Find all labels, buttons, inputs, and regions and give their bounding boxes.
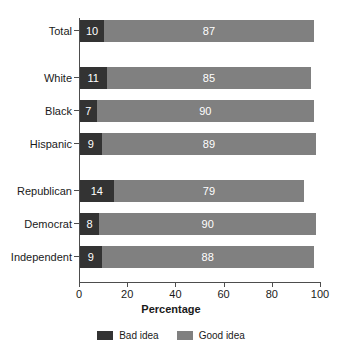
- y-axis-tick: [74, 30, 79, 31]
- legend-item: Good idea: [177, 330, 245, 341]
- category-label: Total: [49, 20, 72, 42]
- x-axis-line: [79, 282, 321, 283]
- legend-swatch: [97, 331, 113, 340]
- x-axis-tick-label: 100: [311, 288, 329, 300]
- chart-legend: Bad ideaGood idea: [0, 330, 342, 341]
- category-label: Republican: [17, 180, 72, 202]
- bar-segment-bad-idea: 9: [80, 133, 102, 155]
- table-row: Democrat890: [0, 213, 342, 235]
- bar-segment-good-idea: 90: [99, 213, 316, 235]
- legend-label: Bad idea: [119, 330, 158, 341]
- y-axis-tick: [74, 256, 79, 257]
- legend-item: Bad idea: [97, 330, 158, 341]
- legend-swatch: [177, 331, 193, 340]
- category-label: Hispanic: [30, 133, 72, 155]
- bar-segment-bad-idea: 9: [80, 246, 102, 268]
- x-axis-tick-label: 0: [76, 288, 82, 300]
- bar-segment-bad-idea: 10: [80, 20, 104, 42]
- y-axis-tick: [74, 143, 79, 144]
- bar-segment-bad-idea: 8: [80, 213, 99, 235]
- x-axis-tick: [320, 282, 321, 287]
- category-label: Democrat: [24, 213, 72, 235]
- table-row: Hispanic989: [0, 133, 342, 155]
- table-row: Republican1479: [0, 180, 342, 202]
- bar-segment-good-idea: 89: [102, 133, 316, 155]
- table-row: White1185: [0, 67, 342, 89]
- bar-segment-bad-idea: 7: [80, 100, 97, 122]
- bar-segment-good-idea: 87: [104, 20, 314, 42]
- table-row: Black790: [0, 100, 342, 122]
- table-row: Total1087: [0, 20, 342, 42]
- x-axis-tick-label: 40: [169, 288, 181, 300]
- x-axis-tick: [175, 282, 176, 287]
- category-label: Black: [45, 100, 72, 122]
- y-axis-tick: [74, 77, 79, 78]
- bar-segment-bad-idea: 14: [80, 180, 114, 202]
- y-axis-tick: [74, 223, 79, 224]
- plot-area: Total1087White1185Black790Hispanic989Rep…: [0, 0, 342, 349]
- x-axis-tick-label: 80: [266, 288, 278, 300]
- x-axis-tick-label: 20: [121, 288, 133, 300]
- y-axis-tick: [74, 190, 79, 191]
- category-label: Independent: [11, 246, 72, 268]
- category-label: White: [44, 67, 72, 89]
- legend-label: Good idea: [199, 330, 245, 341]
- bar-segment-good-idea: 90: [97, 100, 314, 122]
- table-row: Independent988: [0, 246, 342, 268]
- bar-segment-bad-idea: 11: [80, 67, 107, 89]
- x-axis-tick: [272, 282, 273, 287]
- y-axis-tick: [74, 110, 79, 111]
- x-axis-title: Percentage: [0, 303, 342, 315]
- bar-segment-good-idea: 79: [114, 180, 304, 202]
- x-axis-tick: [224, 282, 225, 287]
- x-axis-tick: [127, 282, 128, 287]
- bar-segment-good-idea: 85: [107, 67, 312, 89]
- x-axis-tick-label: 60: [217, 288, 229, 300]
- bar-segment-good-idea: 88: [102, 246, 314, 268]
- x-axis-tick: [79, 282, 80, 287]
- stacked-bar-chart: Total1087White1185Black790Hispanic989Rep…: [0, 0, 342, 349]
